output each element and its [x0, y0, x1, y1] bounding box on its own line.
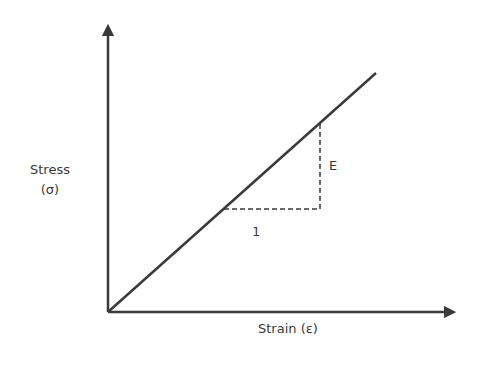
- stress-strain-line: [108, 73, 376, 312]
- rise-label: E: [329, 158, 337, 173]
- y-axis-label-line2: (σ): [30, 180, 70, 200]
- y-axis-label-line1: Stress: [30, 160, 70, 180]
- x-axis-label: Strain (ε): [258, 321, 318, 336]
- y-axis-label: Stress (σ): [30, 160, 70, 200]
- diagram-graphics: [0, 0, 481, 370]
- stress-strain-diagram: Stress (σ) Strain (ε) 1 E: [0, 0, 481, 370]
- run-label: 1: [252, 224, 260, 239]
